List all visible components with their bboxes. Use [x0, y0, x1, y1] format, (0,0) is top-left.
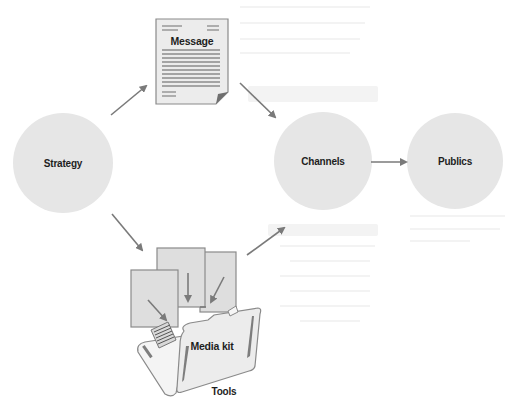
- message-node: Message: [156, 19, 228, 104]
- arrow-strategy-to-message: [111, 86, 146, 115]
- media-kit-label: Media kit: [190, 340, 234, 352]
- channels-label: Channels: [301, 156, 345, 167]
- strategy-diagram: Strategy Channels Publics: [0, 0, 516, 414]
- media-kit-node: Media kit Tools: [131, 248, 261, 397]
- strategy-node: Strategy: [13, 113, 113, 213]
- channels-node: Channels: [274, 112, 372, 210]
- publics-node: Publics: [407, 113, 503, 209]
- arrow-strategy-to-mediakit: [112, 214, 142, 250]
- publics-label: Publics: [438, 156, 473, 167]
- document-icon: [156, 19, 228, 104]
- tools-label: Tools: [212, 386, 238, 397]
- message-label: Message: [171, 35, 214, 47]
- strategy-label: Strategy: [44, 158, 83, 169]
- arrow-mediakit-to-channels: [247, 228, 284, 255]
